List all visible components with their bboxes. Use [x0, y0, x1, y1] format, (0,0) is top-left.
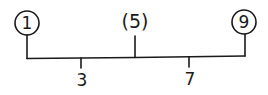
- tree-diagram: 1 (5) 9 3 7: [0, 0, 268, 95]
- node-right: 9: [232, 10, 256, 56]
- node-label: 9: [239, 12, 250, 32]
- leaf-label: 3: [77, 70, 88, 90]
- leaf-label: 7: [185, 69, 196, 89]
- node-middle: (5): [122, 10, 149, 58]
- horizontal-bar: [27, 56, 245, 59]
- leaf-left: 3: [77, 58, 88, 90]
- leaf-right: 7: [185, 57, 196, 89]
- node-label: (5): [122, 10, 149, 32]
- node-label: 1: [22, 13, 33, 33]
- node-left: 1: [15, 11, 39, 59]
